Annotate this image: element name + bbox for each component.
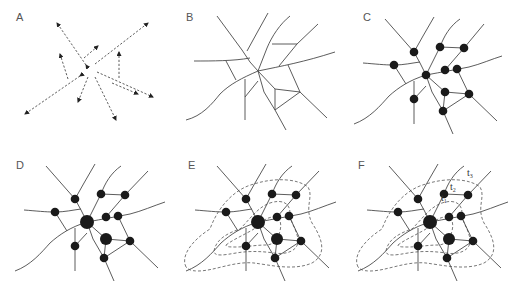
panel-a: A [0,0,172,147]
node [222,208,231,217]
node [273,213,282,222]
weighted-network-diagram [3,147,175,294]
node [394,208,403,217]
node [390,61,399,70]
node-hub-medium [271,233,283,245]
flow-arrows-diagram [0,0,172,147]
node [457,212,466,221]
node [71,195,80,204]
contour-label-t2: t2 [450,181,456,193]
node [410,95,419,104]
isochrone-network-diagram [174,147,346,294]
panel-f: F t3 t2 t1 [346,147,516,294]
street-network-diagram [172,0,344,147]
node-hub-large [423,215,437,229]
node [414,195,423,204]
node [443,254,452,263]
node [460,44,469,53]
node [439,107,448,116]
node-hub-medium [100,233,112,245]
node-hub-medium [443,233,455,245]
network-with-nodes-diagram [344,0,516,147]
node [441,88,450,97]
contour-label-t3: t3 [467,167,473,179]
node [441,66,450,75]
node [242,195,251,204]
node [126,237,135,246]
node [268,190,277,199]
panel-c: C [344,0,516,147]
panel-d: D [3,147,175,294]
node [242,242,251,251]
node [51,208,60,217]
node [453,65,462,74]
node [102,213,111,222]
node [410,48,419,57]
node [271,254,280,263]
node [414,242,423,251]
node [436,43,445,52]
node-hub-large [251,215,265,229]
node [292,191,301,200]
node [469,237,478,246]
node [121,191,130,200]
panel-e: E [174,147,346,294]
node [297,237,306,246]
node-hub-large [80,215,94,229]
panel-b: B [172,0,344,147]
node [100,254,109,263]
node [97,190,106,199]
node [465,90,474,99]
node [464,191,473,200]
node [445,213,454,222]
node-hub [422,71,431,80]
node [114,212,123,221]
labeled-isochrone-network-diagram: t3 t2 t1 [346,147,516,294]
node [71,242,80,251]
node [285,212,294,221]
